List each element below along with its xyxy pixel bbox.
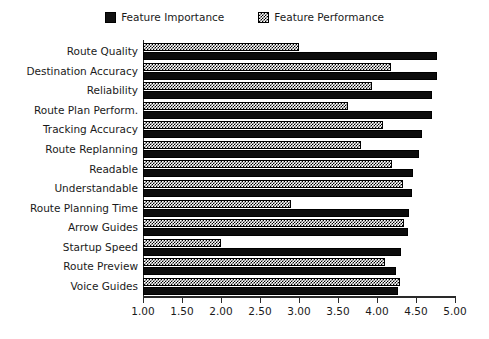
bar-chart: Feature Importance Feature Performance R… [0, 0, 489, 339]
bar-feature-importance [143, 287, 398, 295]
legend-label-feature-performance: Feature Performance [274, 12, 384, 23]
x-axis-tick [143, 296, 144, 303]
bar-feature-importance [143, 189, 412, 197]
bar-feature-performance [143, 82, 372, 90]
y-axis-label: Tracking Accuracy [43, 124, 138, 135]
bar-feature-performance [143, 63, 391, 71]
x-axis-tick-label: 5.00 [435, 306, 475, 317]
x-axis-tick [338, 296, 339, 303]
bar-group [143, 179, 455, 199]
bar-feature-performance [143, 239, 221, 247]
x-axis-tick-label: 2.50 [240, 306, 280, 317]
bar-feature-performance [143, 102, 348, 110]
bar-feature-importance [143, 130, 422, 138]
y-axis-label: Readable [89, 164, 138, 175]
solid-black-square-icon [105, 12, 116, 23]
x-axis-tick [221, 296, 222, 303]
bar-group [143, 276, 455, 296]
plot-area [143, 42, 455, 296]
legend-item-feature-importance: Feature Importance [105, 12, 224, 23]
bar-feature-importance [143, 150, 419, 158]
bar-group [143, 257, 455, 277]
y-axis-category-labels: Route QualityDestination AccuracyReliabi… [0, 42, 138, 296]
bar-group [143, 198, 455, 218]
bar-group [143, 218, 455, 238]
bar-group [143, 101, 455, 121]
bar-feature-importance [143, 52, 437, 60]
bar-group [143, 42, 455, 62]
y-axis-label: Route Preview [63, 261, 138, 272]
bar-group [143, 120, 455, 140]
y-axis-label: Route Planning Time [30, 203, 138, 214]
y-axis-label: Arrow Guides [68, 222, 138, 233]
bar-feature-performance [143, 180, 403, 188]
x-axis-tick-label: 1.50 [162, 306, 202, 317]
y-axis-label: Voice Guides [70, 281, 138, 292]
bar-feature-importance [143, 72, 437, 80]
legend-item-feature-performance: Feature Performance [258, 12, 384, 23]
chart-legend: Feature Importance Feature Performance [0, 12, 489, 23]
bar-feature-importance [143, 228, 408, 236]
bar-feature-performance [143, 141, 361, 149]
bar-feature-importance [143, 248, 401, 256]
y-axis-label: Startup Speed [63, 242, 138, 253]
bar-feature-performance [143, 278, 400, 286]
x-axis-tick [260, 296, 261, 303]
y-axis-label: Route Replanning [45, 144, 138, 155]
x-axis-tick-label: 4.00 [357, 306, 397, 317]
bar-feature-performance [143, 200, 291, 208]
x-axis-tick [182, 296, 183, 303]
x-axis-tick-label: 3.00 [279, 306, 319, 317]
bar-feature-performance [143, 43, 299, 51]
x-axis-tick [416, 296, 417, 303]
bar-feature-importance [143, 169, 413, 177]
x-axis-tick-label: 3.50 [318, 306, 358, 317]
bar-group [143, 237, 455, 257]
bar-feature-performance [143, 121, 383, 129]
y-axis-label: Understandable [54, 183, 138, 194]
bar-feature-performance [143, 219, 404, 227]
bar-group [143, 81, 455, 101]
bar-feature-importance [143, 91, 432, 99]
bar-group [143, 159, 455, 179]
bar-group [143, 140, 455, 160]
bar-feature-performance [143, 160, 392, 168]
x-axis-tick-label: 1.00 [123, 306, 163, 317]
x-axis-tick [299, 296, 300, 303]
bar-feature-performance [143, 258, 385, 266]
x-axis-tick [377, 296, 378, 303]
bar-feature-importance [143, 209, 409, 217]
y-axis-label: Route Quality [67, 46, 138, 57]
bar-feature-importance [143, 267, 396, 275]
checkered-square-icon [258, 12, 269, 23]
bar-group [143, 62, 455, 82]
x-axis-tick [455, 296, 456, 303]
y-axis-label: Reliability [87, 85, 138, 96]
legend-label-feature-importance: Feature Importance [121, 12, 224, 23]
bar-feature-importance [143, 111, 432, 119]
x-axis-tick-label: 4.50 [396, 306, 436, 317]
y-axis-label: Destination Accuracy [26, 66, 138, 77]
x-axis-tick-label: 2.00 [201, 306, 241, 317]
y-axis-label: Route Plan Perform. [34, 105, 138, 116]
